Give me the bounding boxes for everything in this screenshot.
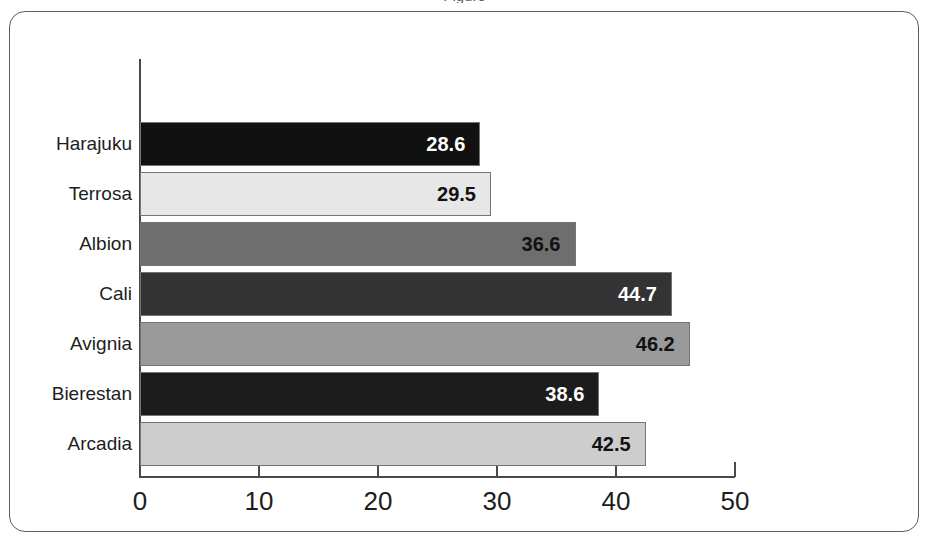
x-axis-tick-label: 0 [133, 486, 147, 517]
category-label-wrap: Bierestan [10, 372, 132, 416]
x-axis-tick-label: 10 [245, 486, 274, 517]
bar-chart-plot-area: 01020304050 Harajuku28.6Terrosa29.5Albio… [10, 12, 920, 533]
category-label-wrap: Albion [10, 222, 132, 266]
bar[interactable] [140, 222, 576, 266]
bar[interactable] [140, 272, 672, 316]
bar[interactable] [140, 372, 599, 416]
category-label: Albion [12, 233, 132, 255]
clipped-caption-fragment: Figure [0, 0, 929, 3]
category-label-wrap: Avignia [10, 322, 132, 366]
bar-value-label: 28.6 [426, 133, 465, 156]
x-axis-tick-label: 20 [364, 486, 393, 517]
bar-row[interactable]: Arcadia42.5 [10, 422, 920, 466]
x-axis-tick-label: 50 [721, 486, 750, 517]
category-label: Avignia [12, 333, 132, 355]
x-axis-tick-label: 30 [483, 486, 512, 517]
category-label-wrap: Harajuku [10, 122, 132, 166]
bar-value-label: 44.7 [618, 283, 657, 306]
x-axis-tick-label: 40 [602, 486, 631, 517]
bar-value-label: 38.6 [545, 383, 584, 406]
bar[interactable] [140, 322, 690, 366]
bar-value-label: 29.5 [437, 183, 476, 206]
bar-row[interactable]: Bierestan38.6 [10, 372, 920, 416]
category-label-wrap: Cali [10, 272, 132, 316]
bar-row[interactable]: Albion36.6 [10, 222, 920, 266]
category-label: Terrosa [12, 183, 132, 205]
bar-value-label: 46.2 [636, 333, 675, 356]
bar[interactable] [140, 422, 646, 466]
category-label-wrap: Terrosa [10, 172, 132, 216]
category-label: Cali [12, 283, 132, 305]
x-axis-line [139, 476, 735, 478]
figure-frame: 01020304050 Harajuku28.6Terrosa29.5Albio… [9, 11, 919, 532]
category-label-wrap: Arcadia [10, 422, 132, 466]
category-label: Harajuku [12, 133, 132, 155]
bar-value-label: 42.5 [592, 433, 631, 456]
bar-row[interactable]: Avignia46.2 [10, 322, 920, 366]
category-label: Arcadia [12, 433, 132, 455]
bar-row[interactable]: Cali44.7 [10, 272, 920, 316]
category-label: Bierestan [12, 383, 132, 405]
bar-value-label: 36.6 [522, 233, 561, 256]
bar-row[interactable]: Terrosa29.5 [10, 172, 920, 216]
bar-row[interactable]: Harajuku28.6 [10, 122, 920, 166]
